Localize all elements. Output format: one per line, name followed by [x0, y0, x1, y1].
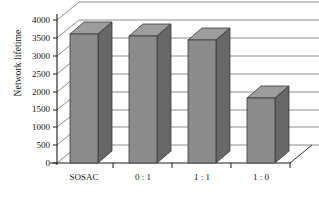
bar-side-face: [98, 22, 112, 163]
bar-sosac[interactable]: [70, 22, 112, 163]
bar-1-0[interactable]: [247, 86, 289, 163]
chart-container: Network lifetime 0 500 1000 1500 2000 25…: [0, 0, 319, 200]
bar-side-face: [157, 24, 171, 163]
x-tick-label-0-1: 0 : 1: [117, 172, 169, 182]
depth-line-4000: [57, 2, 79, 20]
x-tick-label-1-1: 1 : 1: [176, 172, 228, 182]
bar-side-face: [275, 86, 289, 163]
bar-front-face: [188, 40, 216, 163]
bar-front-face: [70, 34, 98, 163]
bar-side-face: [216, 28, 230, 163]
bar-front-face: [247, 98, 275, 163]
floor-right-diagonal: [290, 145, 312, 163]
chart-svg: [0, 0, 319, 200]
floor-plane: [290, 145, 312, 163]
x-tick-label-1-0: 1 : 0: [235, 172, 287, 182]
y-axis-ticks: [53, 20, 57, 163]
bar-0-1[interactable]: [129, 24, 171, 163]
bar-1-1[interactable]: [188, 28, 230, 163]
x-axis-ticks: [113, 163, 290, 168]
x-tick-label-sosac: SOSAC: [58, 172, 110, 182]
plot-area: SOSAC 0 : 1 1 : 1 1 : 0: [0, 0, 319, 200]
bar-front-face: [129, 36, 157, 163]
